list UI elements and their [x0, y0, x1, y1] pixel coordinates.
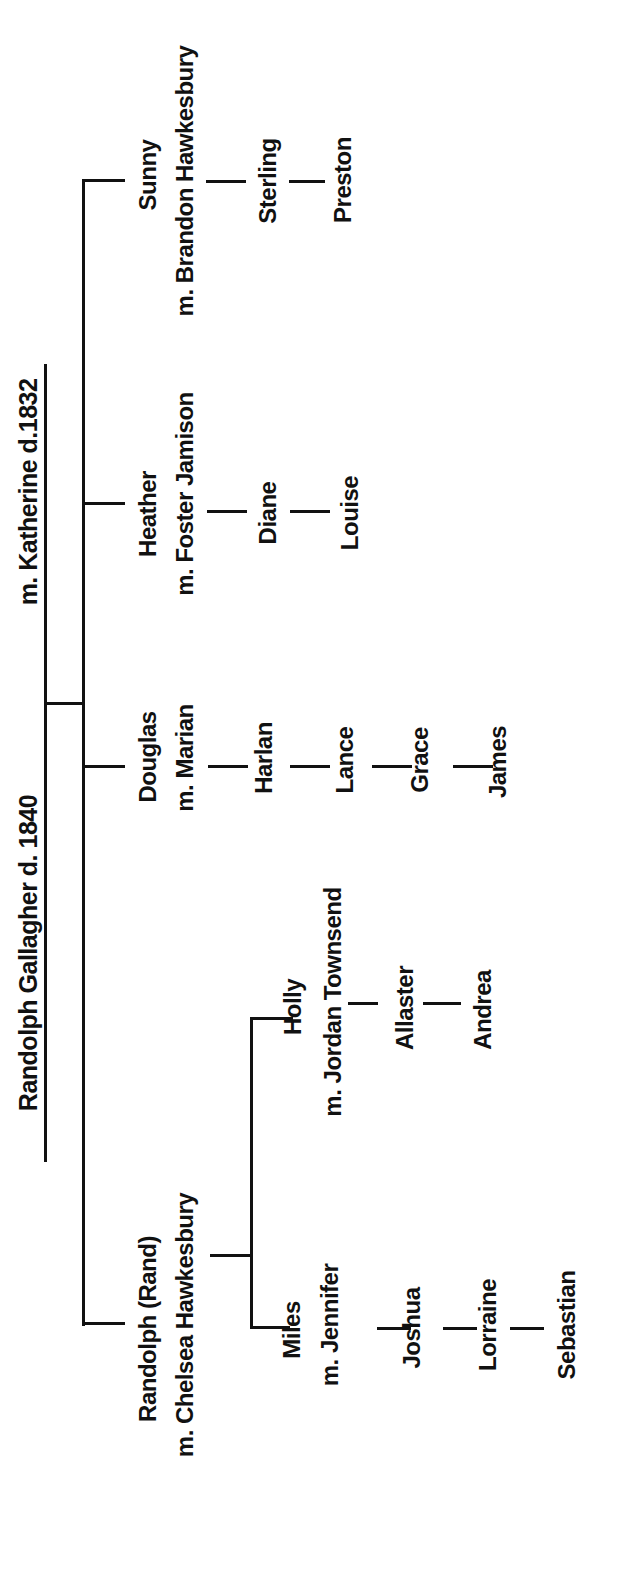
- spouse-douglas: m. Marian: [173, 704, 197, 812]
- descent-line: [289, 180, 325, 183]
- person-preston: Preston: [331, 137, 355, 223]
- descent-line: [423, 1002, 461, 1005]
- descent-line: [290, 765, 330, 768]
- person-james: James: [486, 726, 510, 798]
- person-holly: Holly: [281, 979, 305, 1035]
- branch-tick-randolph: [82, 1322, 125, 1325]
- descent-line: [510, 1327, 544, 1330]
- person-miles: Miles: [280, 1301, 304, 1359]
- person-andrea: Andrea: [471, 970, 495, 1050]
- branch-tick-douglas: [85, 765, 125, 768]
- title-underline: [44, 364, 47, 1162]
- patriarch-spouse: m. Katherine d.1832: [16, 379, 41, 606]
- root-connector: [45, 702, 85, 705]
- person-harlan: Harlan: [252, 722, 276, 794]
- spouse-heather: m. Foster Jamison: [173, 392, 197, 596]
- rand-children-spine: [250, 1017, 253, 1329]
- person-sebastian: Sebastian: [555, 1271, 579, 1380]
- descent-line: [348, 1002, 378, 1005]
- branch-tick-sunny: [82, 179, 125, 182]
- descent-line: [208, 765, 248, 768]
- descent-line: [443, 1327, 477, 1330]
- family-tree-diagram: Randolph Gallagher d. 1840 m. Katherine …: [0, 0, 639, 1578]
- branch-tick-heather: [85, 502, 125, 505]
- descent-line: [207, 510, 247, 513]
- patriarch-title: Randolph Gallagher d. 1840: [16, 795, 41, 1111]
- person-lance: Lance: [333, 727, 357, 794]
- spouse-holly: m. Jordan Townsend: [321, 887, 345, 1116]
- person-allaster: Allaster: [393, 966, 417, 1050]
- person-lorraine: Lorraine: [476, 1279, 500, 1371]
- person-louise: Louise: [338, 476, 362, 550]
- person-grace: Grace: [408, 727, 432, 793]
- person-joshua: Joshua: [400, 1287, 424, 1368]
- person-douglas: Douglas: [136, 711, 160, 802]
- main-spine: [82, 179, 85, 1326]
- spouse-miles: m. Jennifer: [318, 1264, 342, 1387]
- person-diane: Diane: [256, 482, 280, 545]
- descent-line: [206, 180, 246, 183]
- descent-line: [290, 510, 330, 513]
- rand-children-connector: [210, 1254, 252, 1257]
- spouse-randolph-rand: m. Chelsea Hawkesbury: [173, 1193, 197, 1457]
- person-sunny: Sunny: [136, 140, 160, 211]
- spouse-sunny: m. Brandon Hawkesbury: [173, 46, 197, 317]
- person-heather: Heather: [136, 471, 160, 557]
- person-sterling: Sterling: [256, 138, 280, 223]
- person-randolph-rand: Randolph (Rand): [136, 1236, 160, 1422]
